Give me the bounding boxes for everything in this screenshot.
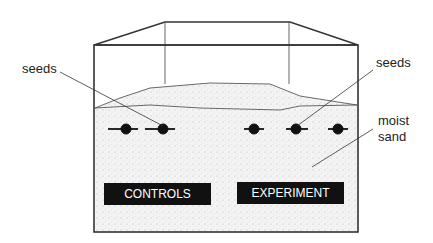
controls-label: CONTROLS <box>104 183 211 205</box>
box-top-left <box>94 22 358 45</box>
experiment-label: EXPERIMENT <box>237 182 344 204</box>
seeds-label-right: seeds <box>376 55 411 70</box>
seeds-label-left: seeds <box>22 61 57 76</box>
moist-label: moist <box>378 113 409 128</box>
sand-label: sand <box>378 129 406 144</box>
terrarium-diagram <box>0 0 433 243</box>
